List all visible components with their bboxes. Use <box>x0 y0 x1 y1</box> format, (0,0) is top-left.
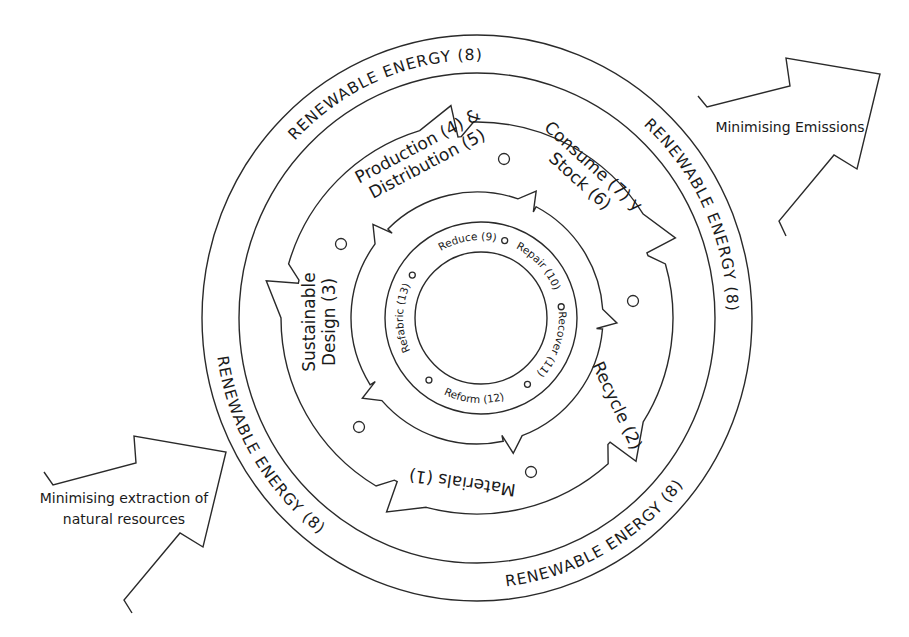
stage-separator-dot <box>499 154 510 165</box>
core-separator-dot <box>502 238 508 244</box>
core-separator-dot <box>409 272 415 278</box>
lifecycle-band: Production (4) &Distribution (5)Consume … <box>266 105 675 514</box>
stage-label-consume: Consume (7) yStock (6) <box>527 117 646 230</box>
arrow-emissions: Minimising Emissions <box>698 58 880 236</box>
stage-labels: Production (4) &Distribution (5)Consume … <box>299 105 647 501</box>
renewable-energy-label: RENEWABLE ENERGY (8) <box>213 355 329 538</box>
circular-economy-diagram: RENEWABLE ENERGY (8)RENEWABLE ENERGY (8)… <box>0 0 909 637</box>
core-action-labels: Reduce (9)Repair (10)Recover (11)Reform … <box>393 230 569 405</box>
stage-separator-dot <box>526 467 537 478</box>
stage-label-recycle: Recycle (2) <box>588 358 646 452</box>
core-inner-circle <box>415 252 547 384</box>
renewable-energy-label: RENEWABLE ENERGY (8) <box>641 115 742 312</box>
core-action-label: Recover (11) <box>535 311 569 380</box>
stage-label-production: Production (4) &Distribution (5) <box>352 105 493 205</box>
stage-label-materials: Materials (1) <box>408 466 517 501</box>
core-action-label: Reform (12) <box>443 385 506 405</box>
core-separator-dot <box>558 304 564 310</box>
stage-separator-dot <box>336 239 347 250</box>
core-outer-circle <box>385 222 577 414</box>
core-separator-dot <box>524 381 530 387</box>
stage-separator-dot <box>628 296 639 307</box>
arrow-shape-icon <box>698 58 880 236</box>
core-action-label: Refabric (13) <box>393 281 412 355</box>
stage-label-design: SustainableDesign (3) <box>299 272 339 371</box>
stage-separator-dot <box>354 422 365 433</box>
core-separator-dot <box>426 377 432 383</box>
core-actions: Reduce (9)Repair (10)Recover (11)Reform … <box>385 222 577 414</box>
arrow-label-emissions: Minimising Emissions <box>715 119 864 135</box>
arrow-extraction: Minimising extraction ofnatural resource… <box>40 436 226 613</box>
arrow-label-extraction: Minimising extraction ofnatural resource… <box>40 490 210 527</box>
core-action-label: Reduce (9) <box>436 230 498 253</box>
